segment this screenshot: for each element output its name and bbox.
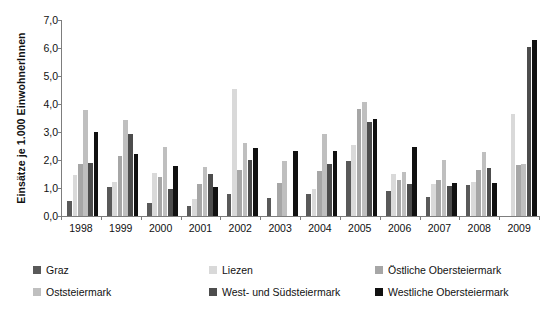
y-axis-tick-mark: [58, 76, 62, 77]
bar: [373, 119, 378, 216]
x-axis-tick-label: 2001: [189, 222, 212, 234]
bar: [436, 180, 441, 216]
bar: [163, 147, 168, 216]
bar: [192, 199, 197, 216]
y-axis-tick-mark: [58, 48, 62, 49]
legend-swatch-icon: [209, 266, 217, 274]
x-axis-tick-mark: [181, 216, 182, 220]
legend-item: Westliche Obersteiermark: [375, 286, 509, 298]
bar: [237, 170, 242, 216]
x-axis-tick-label: 2000: [149, 222, 172, 234]
y-axis-tick-label: 3,0: [43, 126, 58, 138]
y-axis-tick-mark: [58, 20, 62, 21]
y-axis-tick-mark: [58, 132, 62, 133]
bar: [442, 160, 447, 216]
legend-item-label: West- und Südsteiermark: [222, 286, 340, 298]
bar: [243, 143, 248, 216]
x-axis-tick-label: 2003: [268, 222, 291, 234]
y-axis-tick-label: 4,0: [43, 98, 58, 110]
x-axis-tick-mark: [420, 216, 421, 220]
y-axis-tick-mark: [58, 104, 62, 105]
bar: [128, 134, 133, 216]
bar: [391, 174, 396, 216]
bar: [412, 147, 417, 216]
bar: [407, 184, 412, 216]
bar-group: [386, 20, 417, 216]
x-axis-tick-label: 2009: [507, 222, 530, 234]
bar: [197, 184, 202, 216]
bar: [471, 182, 476, 216]
bar: [293, 151, 298, 216]
legend-item-label: Östliche Obersteiermark: [388, 264, 501, 276]
bar: [158, 177, 163, 216]
bar: [147, 203, 152, 216]
bar: [452, 183, 457, 216]
bar: [521, 164, 526, 216]
bar: [78, 164, 83, 216]
bar-group: [147, 20, 178, 216]
bar: [94, 132, 99, 216]
bar: [511, 114, 516, 216]
bar: [351, 145, 356, 216]
bar-group: [466, 20, 497, 216]
legend-item-label: Liezen: [222, 264, 253, 276]
x-axis-tick-label: 2004: [308, 222, 331, 234]
bar: [227, 194, 232, 216]
bar: [107, 187, 112, 216]
bar: [232, 89, 237, 216]
bar: [112, 182, 117, 216]
x-axis-tick-mark: [499, 216, 500, 220]
bar-group: [267, 20, 298, 216]
bar: [327, 164, 332, 216]
bar: [492, 183, 497, 216]
y-axis-tick-label: 7,0: [43, 14, 58, 26]
y-axis-title: Einsätze je 1.000 EinwohnerInnen: [15, 8, 33, 228]
bar: [83, 110, 88, 216]
bar: [527, 47, 532, 216]
bar: [346, 161, 351, 216]
bar: [88, 163, 93, 216]
bar: [447, 186, 452, 216]
legend-item-label: Westliche Obersteiermark: [388, 286, 509, 298]
bar: [123, 120, 128, 216]
y-axis-tick-label: 6,0: [43, 42, 58, 54]
x-axis-tick-label: 2008: [468, 222, 491, 234]
bar: [187, 206, 192, 216]
bar: [306, 194, 311, 216]
legend-swatch-icon: [33, 288, 41, 296]
bar: [431, 184, 436, 216]
x-axis-tick-mark: [380, 216, 381, 220]
x-axis-tick-mark: [220, 216, 221, 220]
bar: [397, 180, 402, 216]
bar: [282, 161, 287, 216]
bar: [312, 189, 317, 216]
bar-group: [107, 20, 138, 216]
bar-group: [67, 20, 98, 216]
legend-item: West- und Südsteiermark: [209, 286, 340, 298]
x-axis-tick-mark: [459, 216, 460, 220]
x-axis-tick-label: 2007: [428, 222, 451, 234]
x-axis-tick-mark: [61, 216, 62, 220]
bar: [482, 152, 487, 216]
legend-item: Liezen: [209, 264, 253, 276]
bar: [322, 134, 327, 216]
bar: [532, 40, 537, 216]
plot-area: 0,01,02,03,04,05,06,07,0: [62, 20, 540, 216]
y-axis-tick-label: 2,0: [43, 154, 58, 166]
bar: [203, 167, 208, 216]
x-axis-tick-label: 2005: [348, 222, 371, 234]
bar: [67, 201, 72, 216]
bar-group: [187, 20, 218, 216]
legend-swatch-icon: [375, 266, 383, 274]
bar: [168, 189, 173, 216]
bar: [362, 102, 367, 216]
bar-group: [506, 20, 537, 216]
legend-swatch-icon: [375, 288, 383, 296]
bar: [208, 174, 213, 216]
x-axis-tick-mark: [340, 216, 341, 220]
y-axis-tick-mark: [58, 188, 62, 189]
bar: [152, 173, 157, 216]
bar: [516, 165, 521, 216]
bar: [426, 197, 431, 216]
legend-item-label: Oststeiermark: [46, 286, 111, 298]
